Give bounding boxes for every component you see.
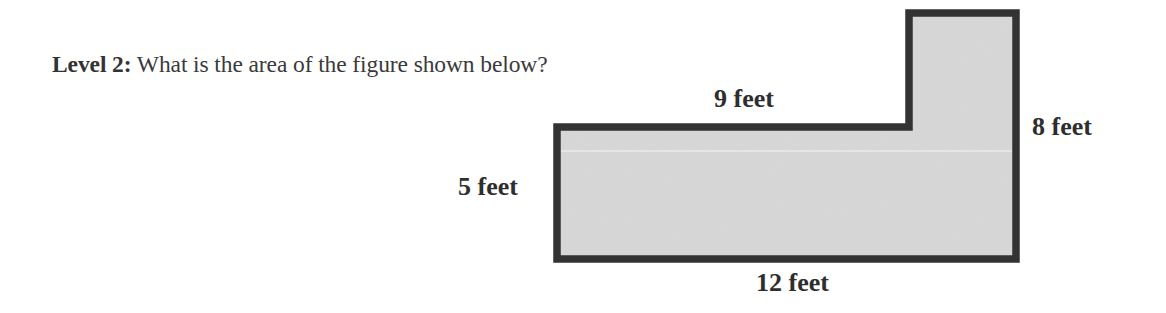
dimension-label-left: 5 feet [458,172,518,202]
dimension-label-right: 8 feet [1032,112,1092,142]
dimension-label-bottom: 12 feet [756,268,829,298]
l-shaped-figure [0,0,1166,313]
dimension-label-top: 9 feet [714,84,774,114]
figure-fill [557,13,1016,259]
